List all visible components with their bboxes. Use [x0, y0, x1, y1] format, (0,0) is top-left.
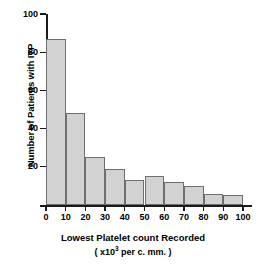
histogram-bar: [125, 180, 145, 205]
histogram-bar: [223, 195, 243, 205]
histogram-bar: [184, 186, 204, 205]
x-tick-mark: [85, 206, 86, 211]
x-tick-mark: [164, 206, 165, 211]
x-axis-units-prefix: ( x10: [94, 247, 115, 257]
y-tick-label: 80: [14, 48, 38, 57]
y-axis-title: Number of Patients with ITP: [25, 6, 36, 206]
y-tick-label: 20: [14, 162, 38, 171]
x-tick-mark: [104, 206, 105, 211]
histogram-bar: [85, 157, 105, 205]
plot-area: [46, 14, 243, 205]
y-tick-label: 60: [14, 86, 38, 95]
x-tick-mark: [124, 206, 125, 211]
x-tick-mark: [144, 206, 145, 211]
x-tick-mark: [45, 206, 46, 211]
histogram-bar: [164, 182, 184, 205]
histogram-figure: Number of Patients with ITP 20406080100 …: [0, 0, 266, 265]
x-tick-mark: [203, 206, 204, 211]
x-axis-title: Lowest Platelet count Recorded: [0, 232, 266, 244]
histogram-bar: [145, 176, 165, 205]
histogram-bar: [204, 194, 224, 205]
x-tick-mark: [223, 206, 224, 211]
x-axis-line: [40, 205, 252, 207]
x-axis-units: ( x103 per c. mm. ): [0, 245, 266, 258]
histogram-bar: [46, 39, 66, 205]
y-tick-label: 40: [14, 124, 38, 133]
x-tick-label: 100: [231, 213, 255, 222]
x-tick-mark: [242, 206, 243, 211]
x-axis-units-suffix: per c. mm. ): [119, 247, 172, 257]
histogram-bar: [105, 169, 125, 205]
histogram-bar: [66, 113, 86, 205]
y-tick-label: 100: [14, 10, 38, 19]
x-tick-mark: [183, 206, 184, 211]
x-tick-mark: [65, 206, 66, 211]
